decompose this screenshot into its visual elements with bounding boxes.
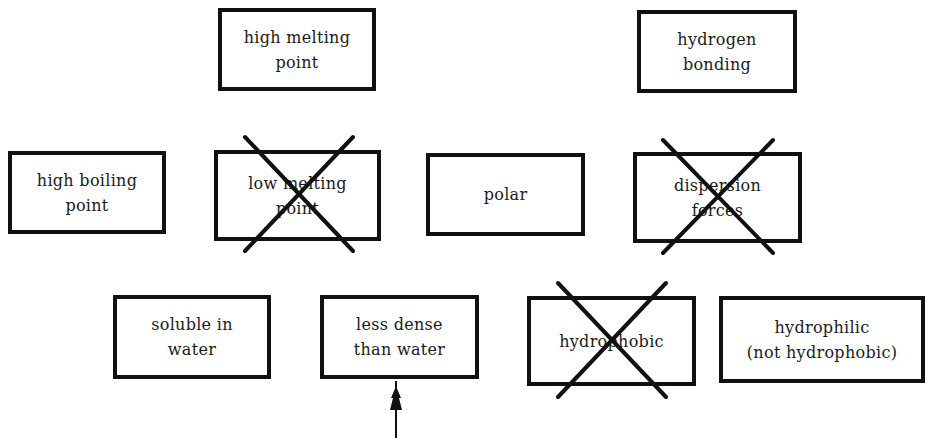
box-hydrophilic: hydrophilic (not hydrophobic) <box>719 296 925 383</box>
box-label: polar <box>484 182 528 207</box>
box-label: less dense than water <box>354 312 445 362</box>
box-hydrophobic: hydrophobic <box>527 296 696 386</box>
box-label: high melting point <box>244 25 351 75</box>
box-less-dense-than-water: less dense than water <box>320 295 479 379</box>
box-label: hydrogen bonding <box>677 27 756 77</box>
box-high-melting-point: high melting point <box>218 8 376 91</box>
box-label: dispersion forces <box>674 173 761 223</box>
box-label: hydrophobic <box>559 329 664 354</box>
box-high-boiling-point: high boiling point <box>8 151 166 234</box>
box-label: low melting point <box>248 171 347 221</box>
box-low-melting-point: low melting point <box>214 150 381 241</box>
box-hydrogen-bonding: hydrogen bonding <box>637 10 797 93</box>
diagram-canvas: high melting point hydrogen bonding high… <box>0 0 933 442</box>
box-label: hydrophilic (not hydrophobic) <box>747 315 897 365</box>
box-polar: polar <box>426 153 585 236</box>
box-label: high boiling point <box>37 168 137 218</box>
box-label: soluble in water <box>151 312 233 362</box>
box-dispersion-forces: dispersion forces <box>633 152 802 243</box>
box-soluble-in-water: soluble in water <box>113 295 271 379</box>
